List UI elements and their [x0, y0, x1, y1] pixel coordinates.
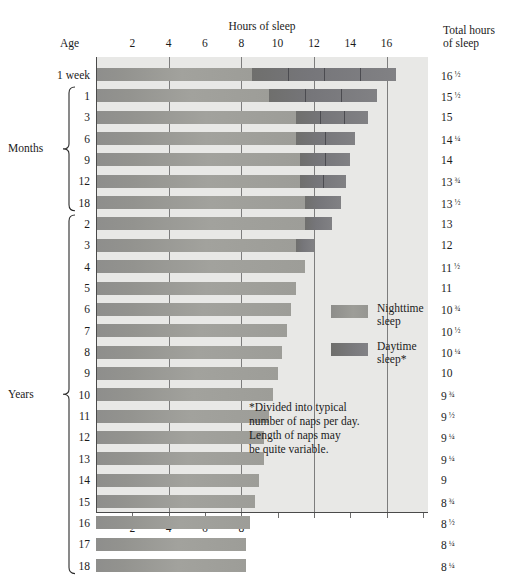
- y-axis-line: [96, 57, 97, 512]
- age-label-1: 1: [84, 90, 90, 102]
- age-label-2: 2: [84, 218, 90, 230]
- total-hours-label: 11: [441, 282, 452, 294]
- bar-row: [96, 111, 428, 124]
- bar-row: [96, 559, 428, 572]
- total-hours-label: 9 ¾: [441, 389, 455, 402]
- legend-nighttime-line1: Nighttime: [377, 302, 424, 315]
- total-hours-label: 9 ¼: [441, 431, 455, 444]
- total-hours-label: 15 ½: [441, 90, 461, 103]
- nap-separator: [360, 68, 361, 81]
- daytime-sleep-bar: [296, 132, 355, 145]
- bar-row: [96, 260, 428, 273]
- age-label-14: 14: [79, 474, 91, 486]
- age-label-9: 9: [84, 367, 90, 379]
- legend-daytime-text: Daytime sleep*: [377, 340, 417, 366]
- total-hours-label: 13 ¾: [441, 175, 461, 188]
- nighttime-sleep-bar: [96, 89, 269, 102]
- total-hours-labels: 16 ½15 ½1514 ¼1413 ¾13 ½131211 ½1110 ¾10…: [441, 0, 519, 552]
- nighttime-sleep-bar: [96, 367, 278, 380]
- fraction-glyph: ¼: [447, 539, 455, 548]
- nighttime-sleep-bar: [96, 260, 305, 273]
- legend-daytime-line1: Daytime: [377, 340, 417, 353]
- bar-row: [96, 153, 428, 166]
- fraction-glyph: ½: [453, 70, 461, 79]
- fraction-glyph: ½: [447, 518, 455, 527]
- age-label-8: 8: [84, 346, 90, 358]
- total-hours-label: 11 ½: [441, 261, 460, 274]
- nighttime-sleep-bar: [96, 217, 305, 230]
- nap-separator: [341, 89, 342, 102]
- age-label-9: 9: [84, 154, 90, 166]
- total-hours-label: 14 ¼: [441, 133, 461, 146]
- footnote: *Divided into typical number of naps per…: [249, 400, 409, 456]
- fraction-glyph: ¼: [447, 454, 455, 463]
- fraction-glyph: ¼: [447, 432, 455, 441]
- age-label-6: 6: [84, 133, 90, 145]
- age-label-18: 18: [79, 560, 91, 572]
- fraction-glyph: ¾: [447, 390, 455, 399]
- total-hours-label: 15: [441, 111, 453, 123]
- nighttime-sleep-bar: [96, 346, 282, 359]
- total-hours-label: 10 ½: [441, 325, 461, 338]
- age-label-5: 5: [84, 282, 90, 294]
- fraction-glyph: ½: [447, 411, 455, 420]
- daytime-sleep-bar: [296, 239, 314, 252]
- bar-row: [96, 68, 428, 81]
- age-label-11: 11: [79, 410, 90, 422]
- nap-separator: [323, 175, 324, 188]
- bar-row: [96, 132, 428, 145]
- nap-separator: [320, 111, 321, 124]
- nighttime-sleep-bar: [96, 410, 269, 423]
- age-label-7: 7: [84, 325, 90, 337]
- age-label-17: 17: [79, 538, 91, 550]
- nighttime-sleep-bar: [96, 303, 291, 316]
- bar-row: [96, 282, 428, 295]
- nighttime-sleep-bar: [96, 132, 296, 145]
- age-label-15: 15: [79, 496, 91, 508]
- daytime-swatch-icon: [331, 343, 368, 356]
- legend-nighttime-text: Nighttime sleep: [377, 302, 424, 328]
- bar-row: [96, 474, 428, 487]
- fraction-glyph: ¼: [447, 561, 455, 570]
- legend-item-daytime: Daytime sleep*: [331, 341, 441, 369]
- total-hours-label: 9: [441, 474, 447, 486]
- fraction-glyph: ¾: [453, 304, 461, 313]
- fraction-glyph: ½: [452, 262, 460, 271]
- nighttime-sleep-bar: [96, 68, 252, 81]
- total-hours-label: 12: [441, 239, 453, 251]
- months-group-bracket: [62, 86, 76, 212]
- months-group-label: Months: [8, 142, 43, 154]
- nighttime-sleep-bar: [96, 452, 264, 465]
- bar-row: [96, 516, 428, 529]
- fraction-glyph: ¾: [453, 176, 461, 185]
- total-hours-label: 10: [441, 367, 453, 379]
- nighttime-sleep-bar: [96, 495, 255, 508]
- legend-nighttime-line2: sleep: [377, 315, 424, 328]
- nap-separator: [324, 68, 325, 81]
- nighttime-sleep-bar: [96, 431, 264, 444]
- nighttime-sleep-bar: [96, 474, 259, 487]
- nap-separator: [288, 68, 289, 81]
- fraction-glyph: ½: [453, 198, 461, 207]
- nap-separator: [344, 111, 345, 124]
- total-hours-label: 8 ½: [441, 517, 455, 530]
- fraction-glyph: ¼: [453, 347, 461, 356]
- age-label-16: 16: [79, 517, 91, 529]
- age-label-3: 3: [84, 239, 90, 251]
- nighttime-sleep-bar: [96, 282, 296, 295]
- daytime-sleep-bar: [305, 196, 341, 209]
- total-hours-label: 8 ¾: [441, 496, 455, 509]
- age-axis-labels: 1 week1369121823456789101112131415161718: [0, 0, 90, 552]
- bar-row: [96, 217, 428, 230]
- total-hours-label: 16 ½: [441, 69, 461, 82]
- age-label-13: 13: [79, 453, 91, 465]
- years-group-bracket: [62, 214, 76, 575]
- nighttime-sleep-bar: [96, 559, 246, 572]
- total-hours-label: 8 ¼: [441, 560, 455, 573]
- age-label-12: 12: [79, 431, 91, 443]
- bar-row: [96, 495, 428, 508]
- fraction-glyph: ¼: [453, 134, 461, 143]
- total-hours-label: 9 ¼: [441, 453, 455, 466]
- nighttime-sleep-bar: [96, 111, 296, 124]
- total-hours-label: 10 ¼: [441, 346, 461, 359]
